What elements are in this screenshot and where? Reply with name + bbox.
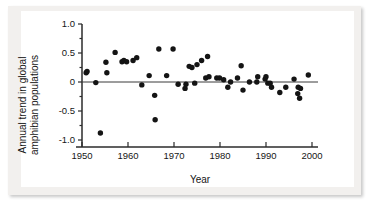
data-point bbox=[192, 80, 197, 85]
data-point bbox=[134, 55, 139, 60]
data-point bbox=[205, 54, 210, 59]
data-point bbox=[152, 93, 157, 98]
data-point bbox=[291, 76, 296, 81]
data-point bbox=[283, 85, 288, 90]
data-point bbox=[170, 46, 175, 51]
data-point bbox=[182, 86, 187, 91]
data-point bbox=[146, 73, 151, 78]
x-tick-label: 1960 bbox=[117, 150, 138, 161]
data-point bbox=[206, 74, 211, 79]
data-point bbox=[263, 74, 268, 79]
data-point bbox=[269, 85, 274, 90]
x-tick-label: 1970 bbox=[163, 150, 184, 161]
data-point bbox=[247, 79, 252, 84]
y-tick-label: 0.5 bbox=[62, 47, 75, 58]
y-axis: 1.00.50-0.5-1.0 bbox=[59, 18, 82, 147]
data-point bbox=[228, 79, 233, 84]
figure-container: Annual trend in global amphibian populat… bbox=[0, 0, 371, 210]
data-point bbox=[277, 90, 282, 95]
data-point bbox=[112, 50, 117, 55]
y-tick-label: 1.0 bbox=[62, 18, 75, 29]
y-tick-label: 0 bbox=[70, 76, 75, 87]
data-point bbox=[255, 74, 260, 79]
data-point bbox=[164, 73, 169, 78]
chart-svg: Annual trend in global amphibian populat… bbox=[0, 0, 371, 210]
data-point bbox=[254, 79, 259, 84]
data-point bbox=[103, 60, 108, 65]
data-point bbox=[139, 82, 144, 87]
data-point bbox=[124, 59, 129, 64]
data-point bbox=[225, 85, 230, 90]
data-point bbox=[297, 96, 302, 101]
scatter-chart: Annual trend in global amphibian populat… bbox=[0, 0, 371, 210]
data-point bbox=[152, 117, 157, 122]
data-point bbox=[240, 87, 245, 92]
data-point bbox=[298, 86, 303, 91]
x-tick-label: 2000 bbox=[301, 150, 322, 161]
x-axis: 195019601970198019902000 bbox=[71, 142, 322, 161]
y-axis-label-line2: amphibian populations bbox=[29, 55, 40, 155]
y-tick-label: -1.0 bbox=[59, 134, 75, 145]
data-point bbox=[156, 46, 161, 51]
data-point bbox=[194, 62, 199, 67]
data-point bbox=[199, 58, 204, 63]
data-point bbox=[189, 65, 194, 70]
y-axis-label: Annual trend in global amphibian populat… bbox=[17, 55, 40, 155]
y-axis-label-line1: Annual trend in global bbox=[17, 57, 28, 154]
data-point bbox=[175, 82, 180, 87]
y-tick-label: -0.5 bbox=[59, 105, 75, 116]
data-point bbox=[295, 91, 300, 96]
data-point bbox=[306, 72, 311, 77]
data-point bbox=[238, 63, 243, 68]
data-point bbox=[235, 75, 240, 80]
x-tick-label: 1950 bbox=[71, 150, 92, 161]
data-point bbox=[84, 69, 89, 74]
x-axis-label: Year bbox=[190, 174, 211, 185]
x-tick-label: 1990 bbox=[255, 150, 276, 161]
x-tick-label: 1980 bbox=[209, 150, 230, 161]
data-point bbox=[221, 77, 226, 82]
data-point bbox=[104, 70, 109, 75]
data-point bbox=[98, 130, 103, 135]
data-points-layer bbox=[83, 46, 311, 135]
data-point bbox=[93, 80, 98, 85]
